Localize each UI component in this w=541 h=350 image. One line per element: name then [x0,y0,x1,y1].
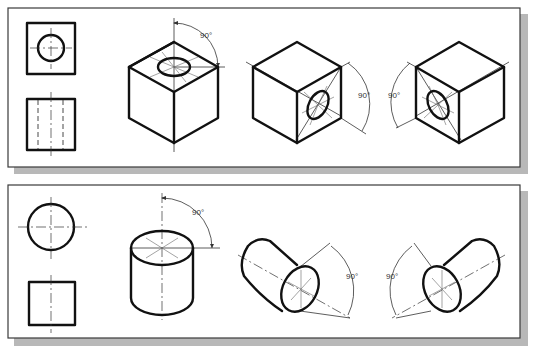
panel-frame [8,185,520,338]
angle-label: 90° [388,91,400,100]
angle-label: 90° [358,91,370,100]
cylinder-panel: 90° 90° [8,185,528,346]
angle-label: 90° [346,272,358,281]
cube-panel: 90° 90° [8,8,528,174]
angle-label: 90° [200,31,212,40]
angle-label: 90° [192,208,204,217]
isometric-drawing-figure: 90° 90° [0,0,541,350]
panel-frame [8,8,520,167]
angle-label: 90° [386,272,398,281]
